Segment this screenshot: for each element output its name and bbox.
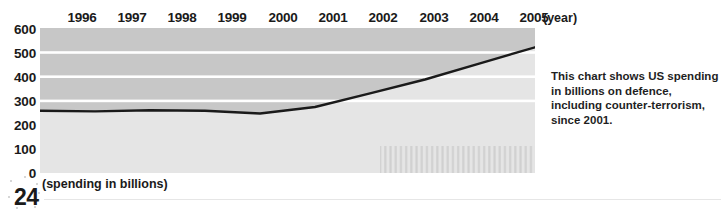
x-tick-label: 1996 bbox=[67, 11, 96, 25]
plot-area bbox=[40, 28, 535, 173]
x-tick-label: 1999 bbox=[217, 11, 246, 25]
hatch-band-counter-terrorism bbox=[380, 146, 535, 173]
y-axis: 600 500 400 300 200 100 0 bbox=[0, 28, 36, 173]
y-axis-unit-label: (spending in billions) bbox=[42, 178, 168, 191]
caption-line: including counter-terrorism, bbox=[551, 98, 719, 113]
x-tick-label: 1997 bbox=[117, 11, 146, 25]
y-tick-label: 500 bbox=[0, 47, 36, 61]
y-tick-label: 400 bbox=[0, 71, 36, 85]
y-tick-label: 100 bbox=[0, 143, 36, 157]
chart-caption: This chart shows US spending in billions… bbox=[551, 69, 719, 127]
x-axis: 1996 1997 1998 1999 2000 2001 2002 2003 … bbox=[40, 11, 535, 27]
decorative-dot bbox=[24, 176, 26, 178]
decorative-dot bbox=[8, 196, 10, 198]
x-tick-label: 2004 bbox=[469, 11, 498, 25]
y-tick-label: 200 bbox=[0, 119, 36, 133]
y-tick-label: 600 bbox=[0, 23, 36, 37]
x-tick-label: 2001 bbox=[318, 11, 347, 25]
y-tick-label: 0 bbox=[0, 167, 36, 181]
page-number: 24 bbox=[14, 186, 39, 209]
x-axis-unit-label: (year) bbox=[543, 12, 577, 25]
x-tick-label: 2000 bbox=[268, 11, 297, 25]
chart-plot-svg bbox=[40, 28, 535, 173]
caption-line: since 2001. bbox=[551, 113, 719, 128]
x-tick-label: 2002 bbox=[368, 11, 397, 25]
defence-spending-chart-figure: 600 500 400 300 200 100 0 1996 1997 1998… bbox=[0, 0, 721, 217]
y-tick-label: 300 bbox=[0, 95, 36, 109]
caption-line: in billions on defence, bbox=[551, 84, 719, 99]
x-tick-label: 1998 bbox=[167, 11, 196, 25]
x-tick-label: 2003 bbox=[419, 11, 448, 25]
decorative-dot bbox=[10, 180, 12, 182]
footer-rule bbox=[44, 199, 721, 200]
caption-line: This chart shows US spending bbox=[551, 69, 719, 84]
